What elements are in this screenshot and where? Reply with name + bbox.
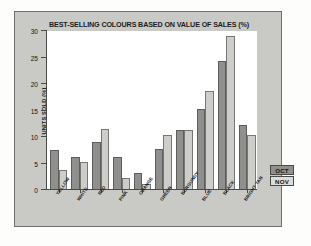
bar-yellow-oct bbox=[50, 150, 59, 189]
bar-pink-oct bbox=[113, 157, 122, 189]
chart-title: BEST-SELLING COLOURS BASED ON VALUE OF S… bbox=[15, 20, 283, 29]
y-axis-tick-label: 30 bbox=[31, 28, 38, 35]
plot-area: 302520151050 bbox=[46, 31, 257, 190]
bar-group bbox=[155, 30, 172, 189]
plot-inner: 302520151050 bbox=[47, 30, 258, 189]
bar-group bbox=[218, 30, 235, 189]
bar-group bbox=[176, 30, 193, 189]
bar-black-nov bbox=[226, 36, 235, 189]
bar-pink-nov bbox=[122, 178, 131, 189]
y-axis-tick: 0 bbox=[41, 189, 47, 190]
x-axis-labels: YELLOWWHITEREDPINKORANGEGREENBURGUNDYBLU… bbox=[46, 192, 257, 236]
legend-item-oct[interactable]: OCT bbox=[270, 165, 294, 175]
bar-group bbox=[113, 30, 130, 189]
bar-white-nov bbox=[80, 162, 89, 189]
bar-group bbox=[134, 30, 151, 189]
chart-frame: BEST-SELLING COLOURS BASED ON VALUE OF S… bbox=[14, 11, 282, 227]
y-axis-tick-label: 0 bbox=[34, 187, 38, 194]
bar-bright-tan-oct bbox=[239, 125, 248, 189]
bar-white-oct bbox=[71, 157, 80, 189]
bar-groups bbox=[47, 30, 258, 189]
y-axis-tick-label: 5 bbox=[34, 160, 38, 167]
chart-page: BEST-SELLING COLOURS BASED ON VALUE OF S… bbox=[0, 0, 311, 246]
bar-red-oct bbox=[92, 142, 101, 189]
bar-group bbox=[197, 30, 214, 189]
x-axis-label-blue: BLUE bbox=[201, 188, 212, 201]
bar-red-nov bbox=[101, 129, 110, 189]
plot-wrapper: UNITS SOLD (%) 302520151050 bbox=[46, 31, 257, 190]
bar-group bbox=[92, 30, 109, 189]
bar-green-nov bbox=[163, 135, 172, 189]
bar-group bbox=[50, 30, 67, 189]
y-axis-tick-label: 25 bbox=[31, 54, 38, 61]
bar-black-oct bbox=[218, 61, 227, 189]
chart-legend: OCT NOV bbox=[270, 165, 296, 187]
x-axis-label-pink: PINK bbox=[118, 190, 129, 202]
bar-green-oct bbox=[155, 149, 164, 189]
bar-blue-oct bbox=[197, 109, 206, 189]
bar-burgundy-oct bbox=[176, 130, 185, 189]
bar-blue-nov bbox=[205, 91, 214, 189]
y-axis-tick-label: 20 bbox=[31, 81, 38, 88]
y-axis-tick-label: 15 bbox=[31, 107, 38, 114]
bar-group bbox=[71, 30, 88, 189]
bar-group bbox=[239, 30, 256, 189]
legend-item-nov[interactable]: NOV bbox=[270, 176, 294, 186]
y-axis-tick-label: 10 bbox=[31, 134, 38, 141]
